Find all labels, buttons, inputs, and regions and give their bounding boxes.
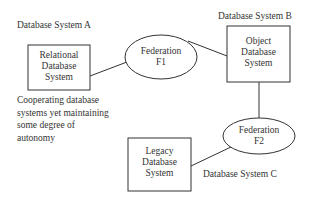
system-c-title: Database System C <box>203 169 277 180</box>
system-c-label: Legacy Database System <box>128 146 191 179</box>
system-c-line-3: System <box>128 168 191 179</box>
edge-f2-c <box>191 147 231 166</box>
edge-a-f1 <box>90 62 127 76</box>
system-b-title: Database System B <box>218 11 292 22</box>
system-a-label: Relational Database System <box>28 50 90 83</box>
system-a-line-2: Database <box>28 61 90 72</box>
system-b-line-1: Object <box>227 36 290 47</box>
system-a-line-1: Relational <box>28 50 90 61</box>
federation-f1-label: Federation F1 <box>125 46 197 68</box>
federation-f1-line-2: F1 <box>125 57 197 68</box>
system-c-line-2: Database <box>128 157 191 168</box>
system-a-title: Database System A <box>17 20 91 31</box>
note-line-1: Cooperating database <box>17 94 109 107</box>
system-c-line-1: Legacy <box>128 146 191 157</box>
system-a-line-3: System <box>28 72 90 83</box>
system-b-line-3: System <box>227 58 290 69</box>
autonomy-note: Cooperating database systems yet maintai… <box>17 94 109 144</box>
system-b-label: Object Database System <box>227 36 290 69</box>
federation-f2-line-2: F2 <box>223 136 295 147</box>
federation-f2-line-1: Federation <box>223 125 295 136</box>
note-line-4: autonomy <box>17 132 109 145</box>
federation-f2-label: Federation F2 <box>223 125 295 147</box>
federation-f1-line-1: Federation <box>125 46 197 57</box>
note-line-2: systems yet maintaining <box>17 107 109 120</box>
system-b-line-2: Database <box>227 47 290 58</box>
note-line-3: some degree of <box>17 119 109 132</box>
